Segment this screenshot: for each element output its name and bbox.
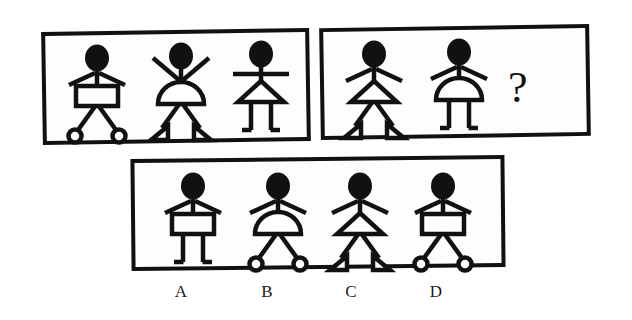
figure-fig-1-3 [226,34,296,146]
figure-fig-1-2 [146,36,216,148]
option-label-a[interactable]: A [171,283,191,300]
figure-legs-parallel-feet-flick [440,100,478,128]
figure-legs-parallel-feet-flick [242,102,280,130]
figure-legs-parallel-feet-flick [174,234,212,262]
figure-body-rectangle [422,214,464,234]
option-label-c[interactable]: C [341,283,361,300]
figure-option-A[interactable] [158,166,228,278]
stick-figure [146,36,216,148]
option-label-b[interactable]: B [257,283,277,300]
figure-body-rectangle [172,214,214,234]
figure-head [85,45,109,72]
stick-figure [424,32,494,144]
figure-head [362,41,386,68]
figure-legs-spread-feet-triangle [344,101,404,138]
figure-option-C[interactable] [325,166,395,278]
figure-fig-2-2 [424,32,494,144]
figure-body-rectangle [76,86,118,106]
figure-legs-spread-feet-circle [69,105,126,143]
stick-figure [226,34,296,146]
figure-legs-spread-feet-triangle [151,103,211,140]
figure-fig-1-1 [62,38,132,150]
figure-body-dome [158,82,204,104]
figure-legs-spread-feet-circle [415,233,472,271]
stick-figure [339,34,409,146]
figure-body-triangle [337,213,383,234]
figure-legs-spread-feet-triangle [330,233,390,270]
figure-body-triangle [238,81,284,102]
figure-fig-2-1 [339,34,409,146]
figure-head [348,173,372,200]
stick-figure [243,166,313,278]
figure-body-dome [255,212,301,234]
figure-head [181,173,205,200]
figure-head [447,39,471,66]
stick-figure [325,166,395,278]
figure-head [169,43,193,70]
puzzle-canvas: ?ABCD [0,0,632,320]
figure-option-D[interactable] [408,166,478,278]
stick-figure [408,166,478,278]
option-label-d[interactable]: D [426,283,446,300]
question-mark: ? [508,66,528,110]
figure-legs-spread-feet-circle [250,233,307,271]
figure-body-dome [436,78,482,100]
figure-option-B[interactable] [243,166,313,278]
stick-figure [158,166,228,278]
figure-head [431,173,455,200]
stick-figure [62,38,132,150]
figure-head [249,41,273,68]
figure-body-triangle [351,81,397,102]
figure-head [266,173,290,200]
